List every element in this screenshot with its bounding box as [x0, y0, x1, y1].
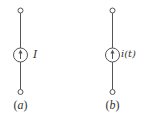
- bottom-terminal-a: [18, 90, 23, 95]
- caption-var-a: a: [18, 98, 24, 112]
- current-source-b: [106, 8, 120, 95]
- caption-var-b: b: [110, 98, 116, 112]
- caption-a: (a): [14, 99, 28, 111]
- bottom-terminal-b: [110, 90, 115, 95]
- caption-b: (b): [106, 99, 120, 111]
- top-terminal-a: [18, 8, 23, 13]
- source-label-b: i(t): [121, 49, 136, 59]
- current-source-a: [14, 8, 28, 95]
- top-terminal-b: [110, 8, 115, 13]
- source-label-a: I: [33, 49, 37, 60]
